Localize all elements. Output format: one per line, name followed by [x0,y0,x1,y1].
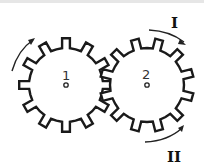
gear-1-axle [64,83,68,87]
gear-diagram: 1 2 I II [0,0,204,168]
rotation-arrow-II [145,125,184,142]
gear-2-axle [145,83,149,87]
rotation-label-II: II [167,148,181,166]
rotation-label-I: I [171,14,178,32]
gear-2-label: 2 [142,67,150,82]
gear-1-label: 1 [62,68,70,83]
diagram-canvas: 1 2 I II [0,0,204,168]
